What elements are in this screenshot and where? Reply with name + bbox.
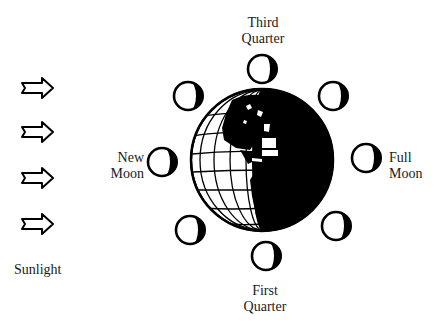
label-first-quarter-line2: Quarter <box>238 299 292 315</box>
label-first-quarter-line1: First <box>238 283 292 299</box>
moon-phases-diagram <box>0 0 446 331</box>
label-full-moon-line2: Moon <box>389 166 439 182</box>
moon-third-quarter-icon <box>248 55 278 83</box>
label-new-moon-line2: Moon <box>100 166 144 182</box>
arrow-right-icon <box>22 122 53 142</box>
arrow-right-icon <box>22 78 53 98</box>
label-third-quarter-line2: Quarter <box>236 31 290 47</box>
label-sunlight: Sunlight <box>14 262 74 278</box>
label-third-quarter-line1: Third <box>236 15 290 31</box>
label-full-moon: Full Moon <box>389 150 439 182</box>
label-new-moon: New Moon <box>100 150 144 182</box>
moon-new-icon <box>148 148 178 176</box>
label-new-moon-line1: New <box>100 150 144 166</box>
moon-waxing-gibbous-icon <box>322 212 352 240</box>
earth-globe-icon <box>190 88 342 238</box>
moon-waxing-crescent-icon <box>176 216 206 244</box>
label-first-quarter: First Quarter <box>238 283 292 315</box>
arrow-right-icon <box>22 168 53 188</box>
arrow-right-icon <box>22 214 53 234</box>
label-full-moon-line1: Full <box>389 150 439 166</box>
moon-full-icon <box>352 144 382 172</box>
sunlight-arrows <box>22 78 53 234</box>
moon-waning-gibbous-icon <box>319 82 349 110</box>
label-third-quarter: Third Quarter <box>236 15 290 47</box>
moon-first-quarter-icon <box>252 242 282 270</box>
moon-waning-crescent-icon <box>174 82 204 110</box>
